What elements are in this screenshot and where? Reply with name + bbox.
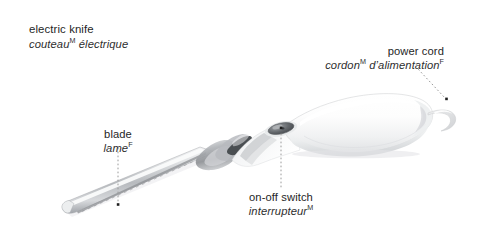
- illustration-page: electric knife couteauM électrique power…: [0, 0, 492, 232]
- leader-dot-power-cord: [445, 98, 448, 101]
- blade-spine-highlight: [67, 149, 206, 206]
- blade-serration-teeth: [82, 156, 205, 211]
- blade-serrations: [77, 152, 206, 213]
- blade-body: [62, 147, 215, 213]
- blade-english: blade: [68, 127, 168, 141]
- power-cord-english: power cord: [244, 44, 444, 58]
- switch-english: on-off switch: [231, 190, 331, 204]
- switch-gender-marker: M: [307, 204, 313, 213]
- power-cord-group: [428, 110, 456, 131]
- blade-group: [62, 147, 215, 217]
- callout-power-cord: power cord cordonM d’alimentationF: [244, 44, 444, 73]
- leader-dot-blade: [117, 203, 120, 206]
- power-cord-french: cordonM d’alimentationF: [244, 58, 444, 72]
- title-english: electric knife: [29, 22, 128, 37]
- blade-gender-marker: F: [128, 141, 132, 150]
- page-title: electric knife couteauM électrique: [29, 22, 128, 51]
- switch-french: interrupteurM: [231, 204, 331, 218]
- handle-group: [232, 94, 433, 167]
- callout-on-off-switch: on-off switch interrupteurM: [231, 190, 331, 219]
- title-french: couteauM électrique: [29, 37, 128, 51]
- blade-french: lameF: [68, 141, 168, 155]
- leader-line-power-cord: [419, 70, 446, 99]
- power-cord: [428, 110, 456, 131]
- handle-contact-shadow: [292, 150, 420, 158]
- callout-blade: blade lameF: [68, 127, 168, 156]
- leader-dot-switch: [280, 127, 283, 130]
- power-cord-gender-marker-2: F: [440, 58, 444, 67]
